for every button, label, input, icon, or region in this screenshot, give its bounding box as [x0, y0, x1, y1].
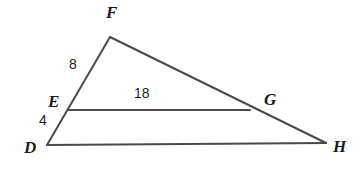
- vertex-label-D: D: [24, 139, 36, 156]
- segment-DH: [47, 143, 326, 145]
- vertex-label-F: F: [106, 4, 117, 21]
- vertex-label-G: G: [264, 91, 276, 108]
- vertex-label-H: H: [333, 138, 346, 155]
- segment-DF: [47, 37, 110, 145]
- figure-svg: [0, 0, 360, 178]
- measure-label-DE: 4: [39, 113, 47, 127]
- measure-label-EF: 8: [69, 57, 77, 71]
- vertex-label-E: E: [48, 93, 59, 110]
- geometry-diagram: F E D G H 8 4 18: [0, 0, 360, 178]
- measure-label-EG: 18: [134, 86, 150, 100]
